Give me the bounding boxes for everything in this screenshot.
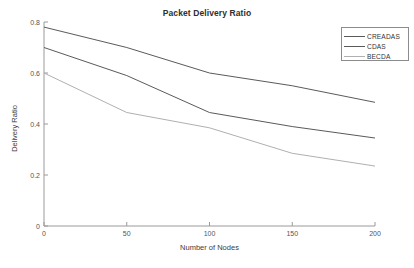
x-tick-label: 50	[123, 230, 131, 237]
legend-line-swatch	[344, 42, 365, 51]
x-axis-ticks	[44, 222, 375, 226]
legend-line-swatch	[344, 52, 365, 61]
y-tick-label: 0	[8, 223, 40, 230]
legend-label: BECDA	[367, 53, 390, 60]
y-tick-label: 0.6	[8, 70, 40, 77]
axis-lines	[44, 22, 375, 226]
x-tick-label: 100	[204, 230, 216, 237]
x-tick-label: 200	[369, 230, 381, 237]
series-line-becda	[44, 73, 375, 166]
legend-item-creadas[interactable]: CREADAS	[344, 31, 400, 41]
series-lines	[44, 27, 375, 166]
y-axis-ticks	[44, 22, 48, 226]
legend-item-becda[interactable]: BECDA	[344, 51, 390, 61]
legend-line-swatch	[344, 32, 365, 41]
chart-figure: Packet Delivery Ratio 00.20.40.60.805010…	[0, 0, 414, 268]
x-tick-label: 150	[286, 230, 298, 237]
legend-item-cdas[interactable]: CDAS	[344, 41, 386, 51]
y-tick-label: 0.2	[8, 172, 40, 179]
y-tick-label: 0.8	[8, 19, 40, 26]
y-axis-title: Delivery Ratio	[10, 89, 19, 169]
legend-label: CREADAS	[367, 33, 400, 40]
legend-label: CDAS	[367, 43, 386, 50]
x-axis-title: Number of Nodes	[44, 243, 375, 252]
chart-legend: CREADASCDASBECDA	[341, 27, 409, 61]
x-tick-label: 0	[42, 230, 46, 237]
